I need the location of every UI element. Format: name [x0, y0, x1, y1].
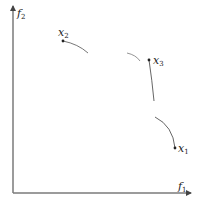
point-label-x3: x3 — [153, 54, 164, 68]
point-label-x2: x2 — [58, 26, 69, 40]
point-x1 — [174, 147, 177, 150]
x-axis-label: f1 — [177, 180, 187, 194]
point-label-x1: x1 — [178, 142, 189, 156]
point-x3 — [148, 59, 151, 62]
point-x2 — [62, 40, 65, 43]
curve-segment-upper-arc — [127, 53, 140, 61]
y-axis-label: f2 — [16, 7, 26, 21]
curve-segment-x2 — [63, 41, 88, 53]
diagram-canvas: f2 f1 x2 x3 x1 — [0, 0, 198, 209]
curve-segment-x1 — [155, 117, 175, 148]
